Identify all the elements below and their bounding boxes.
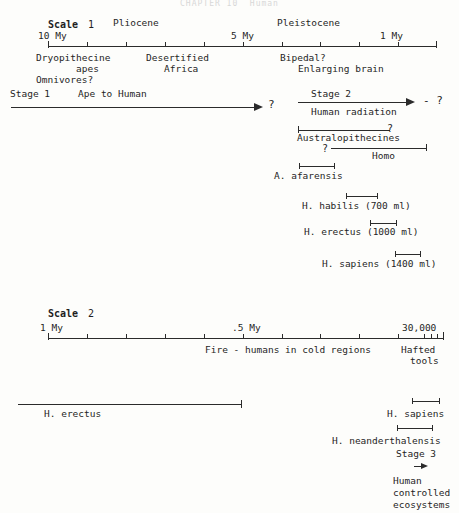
stage3-label: Stage 3 xyxy=(396,448,436,459)
scale2-tick-12 xyxy=(437,334,438,339)
scale2-erectus-bar-line xyxy=(18,404,242,405)
afarensis-bar-line xyxy=(299,166,335,167)
scale2-taxon-erectus-label: H. erectus xyxy=(44,408,101,419)
event-hafted: Hafted xyxy=(401,344,435,355)
homo-bar-end-cap xyxy=(426,144,427,151)
habilis-bar-line xyxy=(346,196,378,197)
stage3-arrow-line xyxy=(414,466,422,467)
scale1-axis-label-10my: 10 My xyxy=(38,30,67,41)
afarensis-bar-start-cap xyxy=(299,163,300,169)
event-africa: Africa xyxy=(164,63,198,74)
scale2-axis-start-cap xyxy=(48,333,49,340)
event-omnivores: Omnivores? xyxy=(36,74,93,85)
event-enlarging-brain: Enlarging brain xyxy=(298,63,384,74)
event-fire-cold-regions: Fire - humans in cold regions xyxy=(205,344,371,355)
taxon-habilis-label: H. habilis (700 ml) xyxy=(302,200,411,211)
stage2-caption: Human radiation xyxy=(311,106,397,117)
scale2-tick-6 xyxy=(282,334,283,339)
stage1-caption: Ape to Human xyxy=(78,88,147,99)
scale1-tick-8 xyxy=(359,42,360,47)
event-hafted-tools: tools xyxy=(410,355,439,366)
stage1-arrow-line xyxy=(11,107,256,108)
page-header-faint: CHAPTER 10 Human xyxy=(0,0,459,8)
epoch-pleistocene: Pleistocene xyxy=(277,17,340,28)
scale1-axis-label-5my: 5 My xyxy=(231,30,254,41)
scale1-axis-start-cap xyxy=(48,41,49,48)
sapiens-bar-end-cap xyxy=(420,251,421,257)
scale2-label-number: 2 xyxy=(88,308,94,319)
scale2-axis-label-30000: 30,000 xyxy=(402,322,436,333)
stage2-label: Stage 2 xyxy=(311,88,351,99)
scale1-tick-1 xyxy=(87,42,88,47)
scale1-label: Scale xyxy=(48,19,78,30)
scale2-sapiens-bar-start-cap xyxy=(412,398,413,404)
sapiens-bar-start-cap xyxy=(395,251,396,257)
sapiens-bar-line xyxy=(395,254,421,255)
scale1-label-number: 1 xyxy=(88,19,94,30)
scale2-tick-10 xyxy=(424,334,425,339)
scale2-sapiens-bar-line xyxy=(412,401,440,402)
scale2-axis-label-half-my: .5 My xyxy=(232,322,261,333)
scale2-taxon-neanderthalensis-label: H. neanderthalensis xyxy=(332,435,441,446)
stage1-terminator-question: ? xyxy=(268,99,275,110)
scale1-tick-5 xyxy=(243,42,244,47)
outcome-controlled: controlled xyxy=(393,487,450,498)
event-dryopithecine: Dryopithecine xyxy=(36,52,110,63)
stage2-terminator-question: - ? xyxy=(423,95,443,106)
habilis-bar-end-cap xyxy=(377,193,378,199)
scale2-axis-line xyxy=(48,338,444,339)
scale2-taxon-sapiens-label: H. sapiens xyxy=(387,408,444,419)
australopithecines-label: Australopithecines xyxy=(297,132,400,143)
scale1-tick-6 xyxy=(282,42,283,47)
stage2-arrow-head xyxy=(406,98,415,106)
scale2-erectus-bar-end-cap xyxy=(241,400,242,408)
epoch-pliocene: Pliocene xyxy=(113,17,159,28)
scale1-tick-3 xyxy=(165,42,166,47)
stage1-arrow-head xyxy=(254,103,263,111)
taxon-afarensis-label: A. afarensis xyxy=(274,170,343,181)
scale2-tick-5 xyxy=(243,334,244,339)
scale2-tick-9 xyxy=(398,334,399,339)
event-desertified: Desertified xyxy=(146,52,209,63)
scale1-tick-9 xyxy=(398,42,399,47)
homo-query: ? xyxy=(322,143,328,154)
scale1-axis-end-cap xyxy=(436,41,437,48)
scale2-tick-8 xyxy=(359,334,360,339)
scale2-neanderthalensis-bar-line xyxy=(397,428,433,429)
erectus-bar-line xyxy=(370,223,397,224)
scale2-tick-2 xyxy=(126,334,127,339)
outcome-ecosystems: ecosystems xyxy=(393,499,450,510)
event-apes: apes xyxy=(76,63,99,74)
taxon-erectus-label: H. erectus (1000 ml) xyxy=(304,226,418,237)
scale1-tick-2 xyxy=(126,42,127,47)
scale2-axis-label-1my: 1 My xyxy=(40,322,63,333)
stage1-label: Stage 1 xyxy=(10,88,50,99)
evolution-timeline-figure: CHAPTER 10 Human Scale 1 Pliocene Pleist… xyxy=(0,0,459,513)
scale1-axis-label-1my: 1 My xyxy=(380,30,403,41)
scale2-axis-end-cap xyxy=(443,332,444,340)
scale2-neanderthalensis-bar-start-cap xyxy=(397,425,398,431)
scale2-sapiens-bar-end-cap xyxy=(439,398,440,404)
australopithecines-bar-line xyxy=(298,130,390,131)
event-bipedal: Bipedal? xyxy=(280,52,326,63)
homo-bar-line xyxy=(331,148,427,149)
scale1-tick-7 xyxy=(320,42,321,47)
scale2-neanderthalensis-bar-end-cap xyxy=(432,425,433,431)
afarensis-bar-end-cap xyxy=(334,163,335,169)
outcome-human: Human xyxy=(393,475,422,486)
scale2-tick-11 xyxy=(431,334,432,339)
stage2-arrow-line xyxy=(298,102,408,103)
scale2-tick-3 xyxy=(165,334,166,339)
habilis-bar-start-cap xyxy=(346,193,347,199)
scale2-tick-1 xyxy=(87,334,88,339)
stage3-arrow-head xyxy=(421,463,428,469)
scale2-tick-7 xyxy=(320,334,321,339)
taxon-sapiens-label: H. sapiens (1400 ml) xyxy=(322,258,436,269)
scale2-label: Scale xyxy=(48,308,78,319)
scale2-tick-4 xyxy=(204,334,205,339)
scale1-tick-4 xyxy=(204,42,205,47)
homo-label: Homo xyxy=(372,150,395,161)
